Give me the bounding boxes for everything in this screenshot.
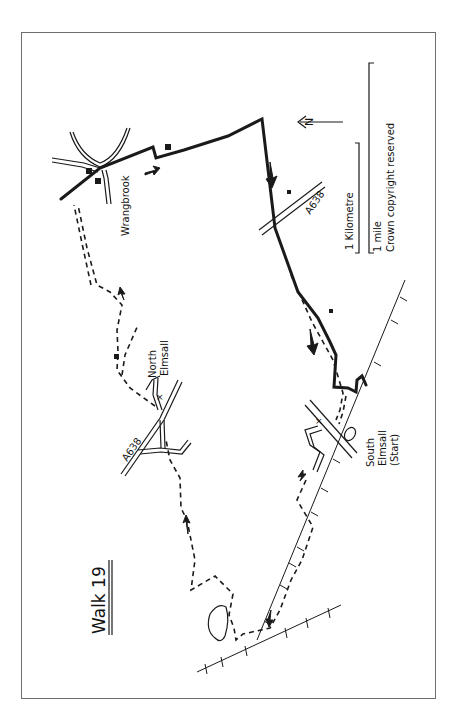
road-a638-west [121,376,191,476]
building-marker [114,354,119,359]
arrow-icon [118,162,318,627]
route-dashed-north-3 [122,325,138,375]
place-label-north-elmsall-1: North [147,350,158,378]
building-marker [287,190,291,194]
road-south-elmsall-side [305,426,324,472]
scale-kilometre-label: 1 Kilometre [344,192,355,250]
place-label-north-elmsall-2: Elmsall [159,340,170,376]
road-wrangbrook [52,128,130,204]
place-label-start: (Start) [389,434,400,466]
building-marker [329,309,333,313]
route-dashed-north-2 [74,205,91,285]
place-label-south-elmsall-1: South [365,438,376,467]
building-marker [86,168,92,174]
route-dashed-north [78,205,155,406]
road-label-a638-east: A638 [303,189,327,217]
north-label: N [303,118,316,126]
place-label-south-elmsall-2: Elmsall [377,430,388,466]
copyright-text: Crown copyright reserved [385,123,396,252]
scale-mile-label: 1 mile [372,221,383,252]
route-dashed-return [166,440,313,640]
building-marker [165,144,171,150]
church-cross-south: × [315,416,323,426]
place-label-wrangbrook: Wrangbrook [120,175,131,236]
pond [208,606,227,641]
church-cross-north: × [156,392,164,402]
walk-map: × × N 1 Kilometre 1 mile Crown copyright… [0,0,461,724]
map-title: Walk 19 [89,566,109,634]
scale-bar-kilometre [355,143,359,253]
building-marker [95,178,101,184]
